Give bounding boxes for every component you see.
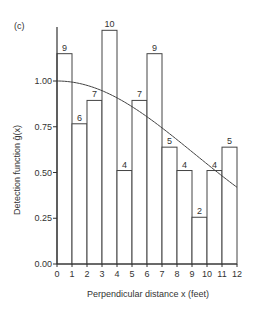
bar-count-label: 7	[137, 89, 142, 99]
x-tick-label: 9	[189, 269, 194, 279]
bar-count-label: 2	[197, 206, 202, 216]
histogram-bar	[222, 147, 237, 264]
x-tick-label: 3	[99, 269, 104, 279]
bar-count-label: 10	[104, 19, 114, 29]
bar-count-label: 7	[92, 89, 97, 99]
y-tick-label: 1.00	[34, 76, 52, 86]
bar-count-label: 4	[122, 160, 127, 170]
x-tick-label: 8	[174, 269, 179, 279]
y-axis-ticks: 0.000.250.500.751.00	[34, 76, 57, 269]
y-tick-label: 0.00	[34, 259, 52, 269]
panel-label: (c)	[14, 21, 25, 31]
x-tick-label: 6	[144, 269, 149, 279]
bar-count-label: 5	[227, 136, 232, 146]
y-tick-label: 0.50	[34, 168, 52, 178]
y-tick-label: 0.25	[34, 213, 52, 223]
y-tick-label: 0.75	[34, 122, 52, 132]
histogram-bars	[57, 30, 237, 264]
histogram-bar	[87, 100, 102, 264]
x-tick-label: 12	[232, 269, 242, 279]
detection-function-chart: (c) 9671047954245 0.000.250.500.751.00 0…	[0, 0, 257, 317]
histogram-bar	[177, 171, 192, 264]
histogram-bar	[207, 171, 222, 264]
histogram-bar	[72, 124, 87, 264]
x-tick-label: 11	[217, 269, 226, 279]
bar-count-label: 9	[152, 43, 157, 53]
bar-count-label: 9	[62, 43, 67, 53]
histogram-bar	[147, 54, 162, 264]
x-tick-label: 10	[202, 269, 212, 279]
histogram-bar	[192, 217, 207, 264]
bar-count-label: 5	[167, 136, 172, 146]
y-axis-label: Detection function ĝ(x)	[12, 125, 22, 215]
x-axis-label: Perpendicular distance x (feet)	[87, 289, 209, 299]
x-tick-label: 1	[69, 269, 74, 279]
histogram-bar	[102, 30, 117, 264]
histogram-bar	[132, 100, 147, 264]
bar-count-label: 4	[182, 160, 187, 170]
histogram-bar	[162, 147, 177, 264]
bar-count-label: 6	[77, 113, 82, 123]
x-tick-label: 5	[129, 269, 134, 279]
x-tick-label: 0	[54, 269, 59, 279]
x-tick-label: 2	[84, 269, 89, 279]
x-tick-label: 7	[159, 269, 164, 279]
x-axis-ticks: 0123456789101112	[54, 264, 242, 279]
histogram-bar	[117, 171, 132, 264]
histogram-bar	[57, 54, 72, 264]
x-tick-label: 4	[114, 269, 119, 279]
